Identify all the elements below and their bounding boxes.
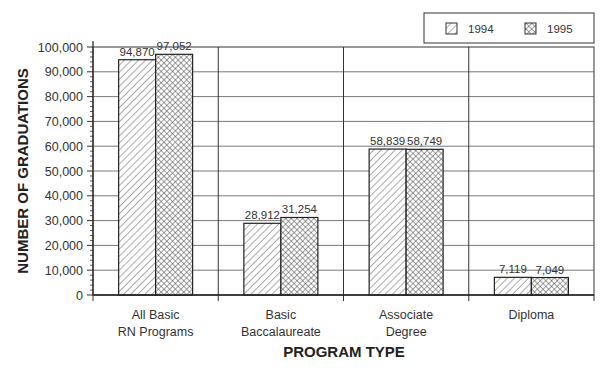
- bar-1995: [281, 217, 318, 295]
- data-label-1994: 28,912: [245, 209, 280, 221]
- y-tick-label: 60,000: [45, 140, 83, 154]
- legend-swatch-1995: [525, 23, 536, 34]
- y-tick-label: 40,000: [45, 189, 83, 203]
- x-category-label: All Basic: [132, 308, 180, 322]
- data-label-1994: 7,119: [499, 263, 527, 275]
- y-tick-label: 80,000: [45, 90, 83, 104]
- y-tick-label: 50,000: [45, 165, 83, 179]
- bar-1994: [119, 60, 156, 295]
- x-category-label: Degree: [386, 325, 427, 339]
- legend-label-1995: 1995: [547, 23, 573, 35]
- legend: 1994 1995: [424, 13, 594, 43]
- bar-chart: 1994 1995 NUMBER OF GRADUATIONS PROGRAM …: [0, 0, 609, 370]
- y-axis-title: NUMBER OF GRADUATIONS: [14, 68, 31, 274]
- x-category-label: RN Programs: [118, 325, 194, 339]
- y-tick-label: 100,000: [38, 41, 83, 55]
- y-tick-label: 10,000: [45, 264, 83, 278]
- bar-1995: [531, 278, 568, 295]
- x-category-label: Diploma: [508, 308, 554, 322]
- y-tick-label: 90,000: [45, 65, 83, 79]
- bar-1995: [406, 149, 443, 295]
- x-category-label: Basic: [266, 308, 297, 322]
- x-axis-title: PROGRAM TYPE: [283, 343, 405, 360]
- data-label-1995: 97,052: [157, 40, 192, 52]
- y-tick-label: 30,000: [45, 214, 83, 228]
- x-category-label: Associate: [379, 308, 433, 322]
- y-tick-label: 0: [76, 289, 83, 303]
- bar-1994: [494, 277, 531, 295]
- x-category-label: Baccalaureate: [241, 325, 321, 339]
- data-label-1995: 31,254: [282, 203, 318, 215]
- data-label-1995: 7,049: [535, 264, 564, 276]
- bar-1994: [369, 149, 406, 295]
- y-tick-label: 20,000: [45, 239, 83, 253]
- data-label-1994: 94,870: [120, 46, 155, 58]
- bar-1995: [156, 54, 193, 295]
- y-tick-label: 70,000: [45, 115, 83, 129]
- legend-swatch-1994: [446, 23, 457, 34]
- data-label-1995: 58,749: [407, 135, 442, 147]
- data-label-1994: 58,839: [370, 135, 405, 147]
- bar-1994: [244, 223, 281, 295]
- legend-label-1994: 1994: [468, 23, 494, 35]
